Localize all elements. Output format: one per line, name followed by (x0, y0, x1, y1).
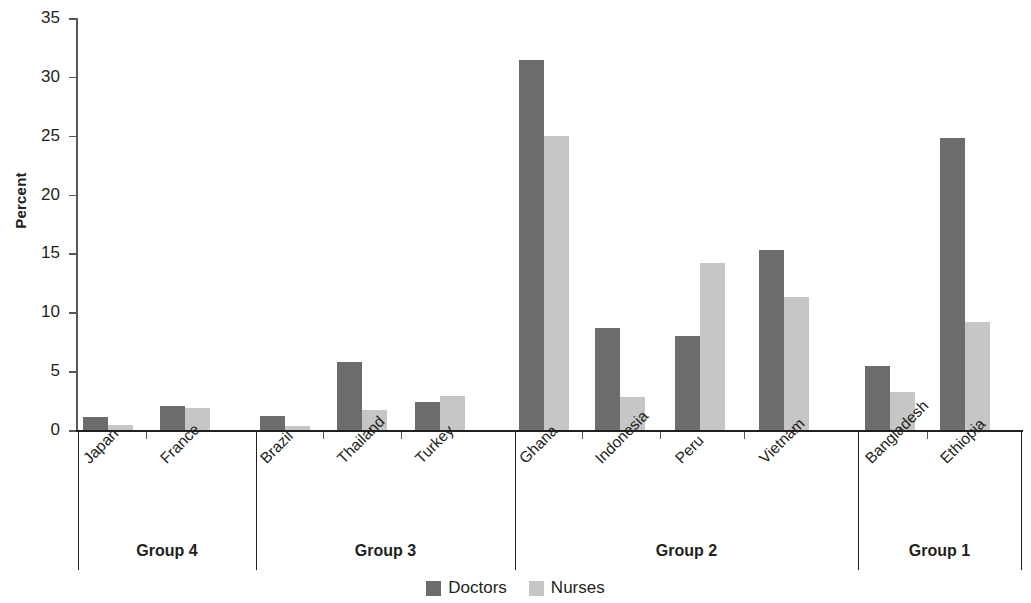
y-tick-label: 25 (41, 126, 60, 146)
bar-bangladesh-doctors (865, 366, 890, 430)
grouped-bar-chart: Percent 05101520253035 JapanFranceBrazil… (0, 0, 1031, 603)
group-band: Group 4Group 3Group 2Group 1 (76, 430, 1023, 570)
group-label-1: Group 4 (136, 542, 197, 560)
group-label-2: Group 3 (355, 542, 416, 560)
bar-peru-doctors (675, 336, 700, 430)
legend-swatch-icon (529, 581, 544, 596)
y-tick-35: 35 (69, 18, 76, 20)
y-tick-30: 30 (69, 77, 76, 79)
legend-label: Nurses (551, 578, 605, 598)
group-label-3: Group 2 (656, 542, 717, 560)
y-tick-label: 20 (41, 185, 60, 205)
y-axis-title: Percent (12, 151, 29, 251)
group-separator-2 (515, 430, 516, 570)
bar-peru-nurses (700, 263, 725, 430)
bar-vietnam-nurses (784, 297, 809, 430)
bar-turkey-doctors (415, 402, 440, 430)
y-tick-label: 0 (51, 420, 60, 440)
group-separator-3 (858, 430, 859, 570)
bar-ethiopia-nurses (965, 322, 990, 430)
group-separator-1 (256, 430, 257, 570)
y-tick-10: 10 (69, 312, 76, 314)
y-tick-label: 10 (41, 302, 60, 322)
legend-item-nurses[interactable]: Nurses (529, 578, 605, 598)
group-separator-4 (1021, 430, 1022, 570)
group-band-top-rule (76, 430, 1023, 432)
bar-brazil-doctors (260, 416, 285, 430)
bar-ethiopia-doctors (940, 138, 965, 430)
plot-area: 05101520253035 JapanFranceBrazilThailand… (76, 18, 1021, 430)
bar-ghana-nurses (544, 136, 569, 430)
y-tick-label: 15 (41, 243, 60, 263)
bar-ghana-doctors (519, 60, 544, 430)
y-tick-label: 35 (41, 8, 60, 28)
y-tick-5: 5 (69, 371, 76, 373)
y-tick-20: 20 (69, 195, 76, 197)
y-axis-line (76, 18, 78, 430)
y-tick-label: 5 (51, 361, 60, 381)
legend-swatch-icon (426, 581, 441, 596)
y-tick-0: 0 (69, 430, 76, 432)
chart-legend: DoctorsNurses (0, 578, 1031, 598)
y-tick-label: 30 (41, 67, 60, 87)
bar-france-doctors (160, 406, 185, 430)
y-tick-15: 15 (69, 253, 76, 255)
legend-item-doctors[interactable]: Doctors (426, 578, 507, 598)
bar-indonesia-doctors (595, 328, 620, 430)
bar-vietnam-doctors (759, 250, 784, 430)
group-label-4: Group 1 (909, 542, 970, 560)
y-tick-25: 25 (69, 136, 76, 138)
legend-label: Doctors (448, 578, 507, 598)
group-separator-0 (78, 430, 79, 570)
bar-thailand-doctors (337, 362, 362, 430)
